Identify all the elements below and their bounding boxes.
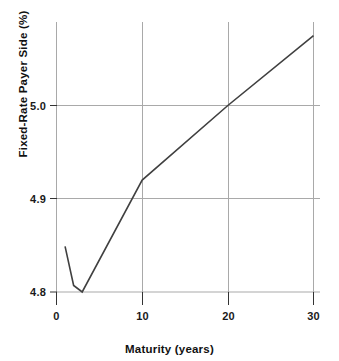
plot-canvas (0, 0, 339, 361)
xtick-label-0: 0 (53, 310, 59, 322)
chart-figure: 5.0 4.9 4.8 0 10 20 30 Maturity (years) … (0, 0, 339, 361)
ytick-label-4.8: 4.8 (14, 286, 46, 298)
xtick-label-30: 30 (307, 310, 320, 322)
xtick-label-20: 20 (222, 310, 235, 322)
axis-ticks (50, 106, 314, 306)
data-series-group (65, 36, 313, 292)
y-axis-title: Fixed-Rate Payer Side (%) (17, 0, 29, 179)
x-axis-title: Maturity (years) (0, 343, 339, 355)
series-line-swap-curve (65, 36, 313, 292)
ytick-label-4.9: 4.9 (14, 193, 46, 205)
xtick-label-10: 10 (136, 310, 149, 322)
